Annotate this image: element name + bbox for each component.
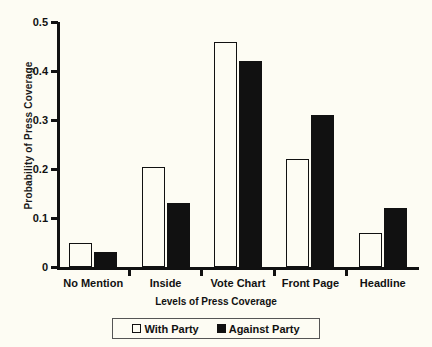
- y-axis-tick: [51, 217, 58, 220]
- y-axis-tick-label: 0.4: [18, 65, 48, 77]
- bar-front-page-against-party: [311, 115, 334, 267]
- plot-area: [57, 22, 419, 267]
- bar-inside-against-party: [167, 203, 190, 267]
- y-axis-tick: [51, 21, 58, 24]
- y-axis-tick-label: 0: [18, 261, 48, 273]
- x-axis-category-label: Vote Chart: [211, 277, 266, 289]
- y-axis-tick-labels: 00.10.20.30.40.5: [18, 0, 48, 347]
- bar-no-mention-against-party: [94, 252, 117, 267]
- y-axis-tick-label: 0.2: [18, 163, 48, 175]
- bar-front-page-with-party: [286, 159, 309, 267]
- legend-entry-with-party: With Party: [132, 323, 198, 335]
- legend-swatch-filled-icon: [217, 324, 226, 333]
- y-axis-tick: [51, 266, 58, 269]
- y-axis-line: [57, 22, 60, 267]
- x-axis-tick: [273, 270, 276, 276]
- legend-swatch-open-icon: [132, 324, 141, 333]
- x-axis-tick: [200, 270, 203, 276]
- legend-label-with-party: With Party: [144, 323, 198, 335]
- y-axis-tick: [51, 70, 58, 73]
- x-axis-category-label: Inside: [150, 277, 182, 289]
- bar-inside-with-party: [142, 167, 165, 267]
- bar-headline-with-party: [359, 233, 382, 267]
- x-axis-line: [57, 267, 419, 270]
- x-axis-category-label: No Mention: [63, 277, 123, 289]
- bar-chart-figure: Probability of Press Coverage 00.10.20.3…: [0, 0, 432, 347]
- bar-vote-chart-against-party: [239, 61, 262, 267]
- x-axis-tick: [345, 270, 348, 276]
- bar-headline-against-party: [384, 208, 407, 267]
- x-axis-category-label: Front Page: [282, 277, 339, 289]
- bar-vote-chart-with-party: [214, 42, 237, 267]
- chart-legend: With Party Against Party: [112, 318, 320, 339]
- x-axis-category-label: Headline: [360, 277, 406, 289]
- x-axis-title: Levels of Press Coverage: [0, 296, 432, 307]
- y-axis-tick-label: 0.5: [18, 16, 48, 28]
- x-axis-tick: [128, 270, 131, 276]
- legend-entry-against-party: Against Party: [217, 323, 300, 335]
- legend-label-against-party: Against Party: [229, 323, 300, 335]
- y-axis-tick-label: 0.3: [18, 114, 48, 126]
- bar-no-mention-with-party: [69, 243, 92, 268]
- y-axis-tick: [51, 119, 58, 122]
- y-axis-tick-label: 0.1: [18, 212, 48, 224]
- y-axis-tick: [51, 168, 58, 171]
